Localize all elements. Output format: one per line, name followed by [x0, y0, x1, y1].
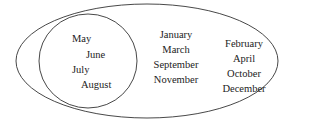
month-label: April — [233, 53, 255, 65]
month-label: June — [86, 49, 105, 61]
month-label: July — [72, 64, 90, 76]
month-label: August — [81, 79, 111, 91]
month-label: September — [154, 59, 199, 71]
month-label: May — [72, 33, 91, 45]
month-label: January — [160, 29, 193, 41]
inner-circle — [39, 14, 137, 108]
month-label: February — [225, 38, 263, 50]
month-label: October — [227, 68, 261, 80]
month-label: December — [222, 83, 265, 95]
month-label: November — [154, 74, 198, 86]
month-label: March — [162, 44, 189, 56]
